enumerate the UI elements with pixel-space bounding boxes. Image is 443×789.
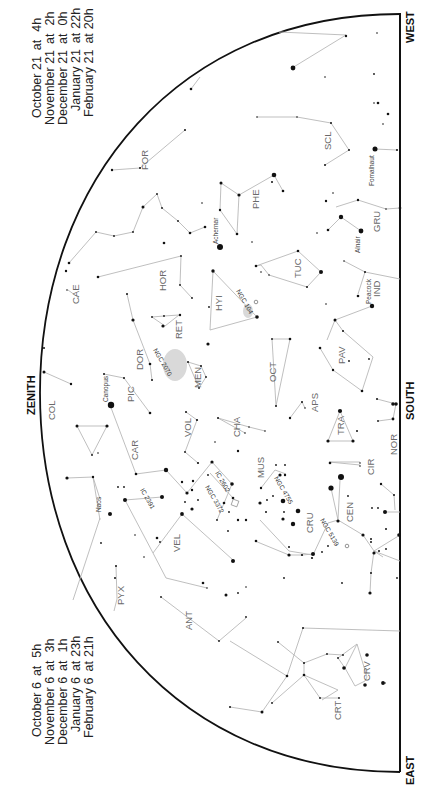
label-scl: SCL: [322, 132, 333, 150]
star-chart: FOR SCL PHE GRU CAE HOR HYI TUC IND RET …: [0, 0, 443, 789]
label-pav: PAV: [336, 346, 347, 364]
label-ngc3372: NGC 3372: [204, 484, 226, 514]
svg-text:November 21at2h: November 21at2h: [43, 12, 57, 125]
label-fomalhaut: Fomalhaut: [368, 155, 375, 186]
label-crv: CRV: [361, 660, 372, 681]
label-cen: CEN: [344, 502, 355, 522]
label-alnair: Alnair: [354, 236, 361, 253]
ngc5139-marker: [345, 544, 349, 548]
label-peacock: Peacock: [365, 278, 372, 304]
label-pic: PIC: [125, 386, 136, 402]
label-cae: CAE: [70, 284, 81, 304]
label-aps: APS: [309, 393, 320, 412]
label-tuc: TUC: [292, 258, 303, 278]
label-vel: VEL: [171, 534, 182, 552]
label-ic2602: IC 2602: [214, 470, 232, 494]
label-dor: DOR: [134, 349, 145, 370]
label-ind: IND: [371, 281, 382, 298]
label-men: MEN: [192, 367, 203, 388]
label-phe: PHE: [250, 189, 261, 209]
label-canopus: Canopus: [102, 375, 110, 402]
direction-west: WEST: [404, 11, 416, 43]
label-vol: VOL: [182, 418, 193, 437]
svg-text:January 6at23h: January 6at23h: [69, 636, 83, 732]
svg-text:October 6at5h: October 6at5h: [30, 644, 44, 737]
label-gru: GRU: [371, 211, 382, 232]
svg-text:October 21at4h: October 21at4h: [30, 18, 44, 118]
label-ret: RET: [173, 320, 184, 339]
times-east: October 6at5h November 6at3h December 6a…: [30, 636, 96, 745]
label-col: COL: [46, 400, 57, 420]
ngc3372-marker: [231, 499, 239, 507]
label-cru: CRU: [304, 512, 315, 533]
label-cha: CHA: [231, 416, 242, 437]
svg-text:February 21at20h: February 21at20h: [82, 8, 96, 117]
label-naos: Naos: [95, 496, 102, 512]
label-hyi: HYI: [213, 295, 224, 311]
label-tra: TRA: [335, 415, 346, 435]
ngc104-marker: [254, 300, 258, 304]
direction-zenith: ZENITH: [25, 375, 37, 415]
label-oct: OCT: [267, 362, 278, 382]
svg-text:November 6at3h: November 6at3h: [43, 639, 57, 745]
label-car: CAR: [129, 440, 140, 460]
label-mus: MUS: [255, 457, 266, 478]
tw-0-date: October 21: [30, 56, 44, 118]
label-achernar: Achernar: [212, 217, 219, 244]
label-ant: ANT: [183, 611, 194, 630]
svg-text:December 21at0h: December 21at0h: [56, 12, 70, 125]
sky-dome-arc: [40, 14, 400, 772]
label-crt: CRT: [332, 700, 343, 720]
times-west: October 21at4h November 21at2h December …: [30, 8, 96, 125]
stars: [43, 32, 402, 713]
svg-text:December 6at1h: December 6at1h: [56, 639, 70, 745]
svg-text:January 21at22h: January 21at22h: [69, 8, 83, 111]
label-cir: CIR: [365, 459, 376, 476]
label-pyx: PYX: [115, 585, 126, 605]
direction-east: EAST: [404, 755, 416, 785]
label-for: FOR: [139, 150, 150, 170]
svg-text:February 6at21h: February 6at21h: [82, 636, 96, 738]
label-nor: NOR: [388, 434, 399, 455]
direction-south: SOUTH: [404, 381, 416, 420]
label-hor: HOR: [157, 270, 168, 291]
